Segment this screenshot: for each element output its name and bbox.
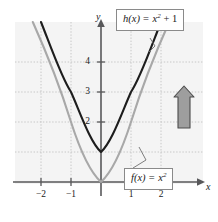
y-axis-label: y <box>96 11 100 22</box>
callout-f-arg: (x) <box>134 172 146 183</box>
callout-h-equals: = <box>140 13 153 24</box>
callout-h: h(x) = x2 + 1 <box>116 9 184 31</box>
callout-f-equals: = <box>146 172 159 183</box>
ytick-label-3: 3 <box>81 86 94 96</box>
callout-h-arg: (x) <box>128 13 140 24</box>
xtick-label-1: 1 <box>124 189 138 199</box>
ytick-label-2: 2 <box>81 116 94 126</box>
xtick-label-2: 2 <box>154 189 168 199</box>
xtick-label-neg2: −2 <box>31 189 51 199</box>
callout-f: f(x) = x2 <box>124 168 173 190</box>
parabola-shift-figure: h(x) = x2 + 1 f(x) = x2 y x −2 −1 1 2 2 … <box>0 0 218 222</box>
x-axis-label: x <box>206 181 210 192</box>
xtick-label-neg1: −1 <box>61 189 81 199</box>
ytick-label-4: 4 <box>81 56 94 66</box>
callout-f-exponent: 2 <box>163 171 167 179</box>
callout-h-plus: + 1 <box>161 13 177 24</box>
